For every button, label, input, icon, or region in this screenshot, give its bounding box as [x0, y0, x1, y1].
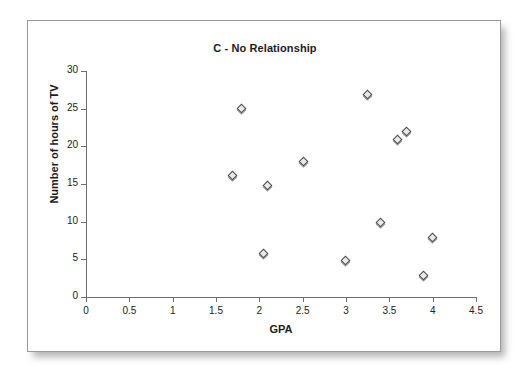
x-tick-mark [216, 297, 217, 302]
x-tick-label: 0 [66, 305, 106, 316]
x-tick-label: 4 [413, 305, 453, 316]
x-tick-mark [433, 297, 434, 302]
data-point-marker [362, 90, 372, 100]
x-tick-label: 2.5 [283, 305, 323, 316]
chart-title: C - No Relationship [28, 42, 502, 54]
data-point-marker [263, 180, 273, 190]
x-tick-label: 0.5 [109, 305, 149, 316]
data-point-marker [298, 157, 308, 167]
x-tick-mark [476, 297, 477, 302]
data-point-marker [228, 171, 238, 181]
x-tick-mark [303, 297, 304, 302]
x-tick-label: 3 [326, 305, 366, 316]
screenshot-root: C - No Relationship 00.511.522.533.544.5… [0, 0, 531, 390]
x-tick-label: 3.5 [369, 305, 409, 316]
x-tick-label: 4.5 [456, 305, 496, 316]
x-tick-mark [86, 297, 87, 302]
data-point-marker [237, 104, 247, 114]
y-tick-mark [81, 297, 86, 298]
x-tick-mark [259, 297, 260, 302]
x-tick-label: 1 [153, 305, 193, 316]
x-tick-label: 2 [239, 305, 279, 316]
scatter-chart: C - No Relationship 00.511.522.533.544.5… [28, 21, 502, 353]
x-tick-mark [129, 297, 130, 302]
data-point-marker [393, 135, 403, 145]
x-tick-mark [173, 297, 174, 302]
data-point-marker [375, 218, 385, 228]
data-point-marker [341, 255, 351, 265]
y-tick-label: 5 [46, 252, 78, 263]
data-point-marker [419, 270, 429, 280]
data-points-layer [86, 71, 476, 297]
data-point-marker [401, 127, 411, 137]
data-point-marker [258, 249, 268, 259]
x-tick-mark [389, 297, 390, 302]
data-point-marker [427, 233, 437, 243]
figure-card: C - No Relationship 00.511.522.533.544.5… [27, 20, 501, 352]
x-axis-title: GPA [86, 323, 476, 335]
y-axis-title: Number of hours of TV [48, 64, 60, 224]
x-tick-label: 1.5 [196, 305, 236, 316]
x-axis-line [86, 297, 477, 298]
y-tick-label: 0 [46, 290, 78, 301]
x-tick-mark [346, 297, 347, 302]
